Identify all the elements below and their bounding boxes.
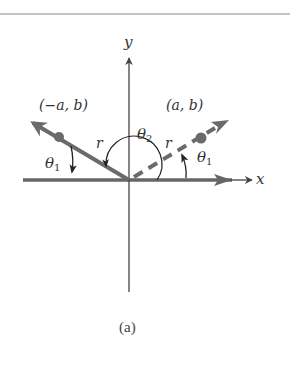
theta1-right-arc [182, 155, 186, 178]
theta1-left-arc [71, 146, 73, 172]
theta-symbol: θ [45, 154, 54, 172]
theta-symbol: θ [137, 125, 146, 143]
diagram-canvas [0, 0, 290, 366]
theta1-left-label: θ1 [45, 156, 60, 173]
y-axis-label: y [124, 35, 132, 50]
theta-symbol: θ [197, 148, 206, 166]
theta2-label: θ2 [137, 127, 152, 144]
theta-subscript: 2 [146, 133, 152, 144]
point-neg-a-b [54, 132, 64, 142]
figure-caption: (a) [119, 320, 136, 335]
point-label-neg-a-b: (−a, b) [39, 98, 88, 112]
theta1-right-label: θ1 [197, 150, 212, 167]
point-label-a-b: (a, b) [166, 98, 203, 112]
radius-label-right: r [165, 136, 172, 150]
theta-subscript: 1 [206, 156, 212, 167]
x-axis-label: x [256, 172, 264, 187]
point-a-b [196, 133, 207, 144]
polar-coordinates-figure: y x (−a, b) (a, b) r r θ1 θ2 θ1 (a) [0, 0, 290, 366]
theta-subscript: 1 [54, 162, 60, 173]
radius-label-left: r [96, 136, 103, 150]
